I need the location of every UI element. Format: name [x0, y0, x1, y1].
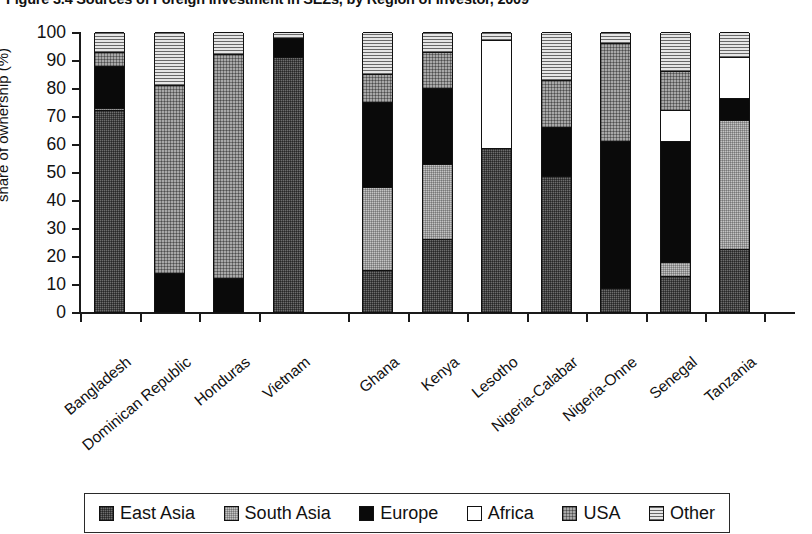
y-axis-tick: [72, 116, 79, 118]
legend-swatch-south-asia-icon: [224, 506, 239, 521]
bar-segment-south-asia: [423, 164, 452, 240]
bar-segment-europe: [155, 273, 184, 312]
x-axis-tick: [705, 314, 707, 322]
bar-bangladesh[interactable]: [94, 33, 125, 313]
y-axis-tick: [72, 172, 79, 174]
legend-item-usa[interactable]: USA: [562, 504, 620, 522]
y-axis-tick-label: 100: [37, 24, 66, 42]
y-axis-tick: [72, 312, 79, 314]
bar-ghana[interactable]: [362, 33, 393, 313]
y-axis-tick: [72, 32, 79, 34]
bar-dominican-republic[interactable]: [154, 33, 185, 313]
bar-segment-south-asia: [661, 262, 690, 276]
legend-label: Europe: [380, 504, 438, 522]
x-axis-label-vietnam: Vietnam: [259, 353, 313, 403]
y-axis-tick: [72, 200, 79, 202]
y-axis-tick: [72, 284, 79, 286]
bar-segment-usa: [363, 74, 392, 102]
bar-segment-europe: [95, 66, 124, 108]
legend-label: Africa: [488, 504, 534, 522]
x-axis-tick: [586, 314, 588, 322]
legend-item-south-asia[interactable]: South Asia: [224, 504, 331, 522]
bar-segment-europe: [214, 278, 243, 312]
legend-label: South Asia: [245, 504, 331, 522]
legend-label: USA: [583, 504, 620, 522]
y-axis-line: [79, 32, 81, 314]
bar-segment-other: [214, 32, 243, 54]
bar-segment-other: [155, 32, 184, 85]
bar-segment-east-asia: [274, 57, 303, 312]
bar-segment-europe: [542, 127, 571, 176]
legend-label: East Asia: [120, 504, 195, 522]
y-axis-tick-label: 30: [47, 220, 66, 238]
x-axis-tick: [259, 314, 261, 322]
legend-swatch-europe-icon: [359, 506, 374, 521]
legend-item-east-asia[interactable]: East Asia: [99, 504, 195, 522]
x-axis-label-kenya: Kenya: [417, 353, 462, 395]
bar-segment-usa: [423, 52, 452, 88]
bar-segment-usa: [214, 54, 243, 278]
x-axis-tick: [348, 314, 350, 322]
bar-segment-usa: [601, 43, 630, 141]
bar-segment-east-asia: [661, 276, 690, 312]
x-axis-tick: [408, 314, 410, 322]
legend-item-other[interactable]: Other: [649, 504, 715, 522]
bar-tanzania[interactable]: [719, 33, 750, 313]
bar-segment-east-asia: [482, 148, 511, 312]
chart-plot-area: BangladeshDominican RepublicHondurasViet…: [80, 33, 794, 313]
bar-segment-europe: [661, 141, 690, 261]
legend-swatch-other-icon: [649, 506, 664, 521]
bar-segment-africa: [661, 110, 690, 141]
figure-title: Figure 3.4 Sources of Foreign Investment…: [6, 0, 529, 7]
bar-segment-south-asia: [363, 187, 392, 270]
bar-segment-south-asia: [720, 120, 749, 249]
y-axis-tick-label: 10: [47, 276, 66, 294]
x-axis-label-tanzania: Tanzania: [701, 353, 759, 406]
y-axis-tick: [72, 256, 79, 258]
x-axis-tick: [467, 314, 469, 322]
x-axis-label-lesotho: Lesotho: [468, 353, 521, 402]
bar-segment-east-asia: [363, 270, 392, 312]
bar-segment-europe: [423, 88, 452, 164]
legend-label: Other: [670, 504, 715, 522]
y-axis-tick: [72, 144, 79, 146]
bar-segment-other: [95, 32, 124, 52]
bar-segment-other: [661, 32, 690, 71]
bar-lesotho[interactable]: [481, 33, 512, 313]
bar-segment-usa: [661, 71, 690, 110]
bar-segment-other: [363, 32, 392, 74]
bar-senegal[interactable]: [660, 33, 691, 313]
x-axis-tick: [646, 314, 648, 322]
x-axis-tick: [764, 314, 766, 322]
x-axis-tick: [199, 314, 201, 322]
bar-segment-east-asia: [601, 288, 630, 312]
bar-segment-other: [720, 32, 749, 57]
bar-kenya[interactable]: [422, 33, 453, 313]
bar-segment-other: [542, 32, 571, 80]
x-axis-label-honduras: Honduras: [191, 353, 253, 409]
x-axis-tick: [140, 314, 142, 322]
bar-segment-east-asia: [423, 239, 452, 312]
bar-segment-south-asia: [95, 108, 124, 111]
legend-item-europe[interactable]: Europe: [359, 504, 438, 522]
bar-segment-usa: [95, 52, 124, 66]
y-axis-tick-label: 0: [56, 304, 66, 322]
bar-honduras[interactable]: [213, 33, 244, 313]
y-axis-tick-label: 80: [47, 80, 66, 98]
y-axis-tick: [72, 228, 79, 230]
bar-segment-east-asia: [542, 176, 571, 312]
bar-segment-usa: [542, 80, 571, 128]
legend-item-africa[interactable]: Africa: [467, 504, 534, 522]
bar-segment-other: [423, 32, 452, 52]
bar-segment-europe: [720, 98, 749, 120]
x-axis-tick: [80, 314, 82, 322]
bar-nigeria-onne[interactable]: [600, 33, 631, 313]
bar-vietnam[interactable]: [273, 33, 304, 313]
x-axis-label-dominican-republic: Dominican Republic: [78, 353, 194, 454]
legend-swatch-east-asia-icon: [99, 506, 114, 521]
y-axis-tick-label: 70: [47, 108, 66, 126]
bar-segment-africa: [720, 57, 749, 98]
bar-segment-east-asia: [95, 110, 124, 312]
x-axis-label-ghana: Ghana: [356, 353, 403, 396]
bar-nigeria-calabar[interactable]: [541, 33, 572, 313]
